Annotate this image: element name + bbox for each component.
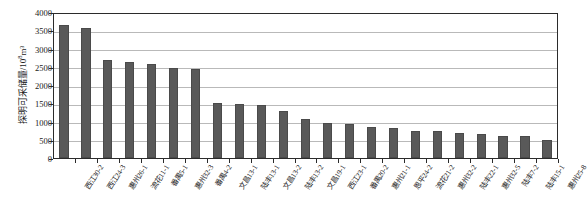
x-axis-tick-label: 西江23-1: [346, 163, 368, 191]
x-axis-tick-label: 番禺5-1: [169, 163, 189, 188]
y-axis-tick-label: 0: [8, 155, 52, 163]
y-axis-tick-label: 3500: [8, 27, 52, 35]
x-axis-tick-label: 西江24-3: [105, 163, 127, 191]
x-axis-tick-label: 文昌13-1: [237, 163, 259, 191]
x-axis-tick-mark: [185, 159, 186, 163]
x-axis-tick-mark: [229, 159, 230, 163]
x-axis-tick-label: 文昌13-2: [281, 163, 303, 191]
x-axis-tick-label: 惠州21-1: [390, 163, 412, 191]
x-axis-tick-label: 番禺20-2: [368, 163, 390, 191]
x-axis-tick-label: 惠州26-1: [127, 163, 149, 191]
x-axis-tick-label: 西江30-2: [83, 163, 105, 191]
x-axis-tick-label: 流花11-1: [149, 163, 171, 191]
gridline: [54, 32, 557, 33]
gridline: [54, 50, 557, 51]
y-axis-title-exponent: 8: [16, 55, 23, 58]
plot-area: [53, 13, 558, 159]
gridline: [54, 105, 557, 106]
x-axis-tick-labels: 西江30-2西江24-3惠州26-1流花11-1番禺5-1惠州32-3番禺4-2…: [53, 163, 558, 211]
y-axis-tick-label: 1000: [8, 119, 52, 127]
gridline: [54, 68, 557, 69]
gridline: [54, 123, 557, 124]
gridline: [54, 141, 557, 142]
y-axis-tick-label: 2000: [8, 82, 52, 90]
x-axis-tick-label: 文昌19-1: [325, 163, 347, 191]
x-axis-tick-label: 惠州25-8: [566, 163, 588, 191]
x-axis-tick-label: 陆丰15-1: [544, 163, 566, 191]
y-axis-tick-label: 4000: [8, 9, 52, 17]
x-axis-tick-label: 惠州32-2: [456, 163, 478, 191]
x-axis-tick-label: 番禺4-2: [213, 163, 233, 188]
x-axis-tick-mark: [536, 159, 537, 163]
x-axis-tick-label: 惠州32-3: [193, 163, 215, 191]
y-axis-tick-label: 1500: [8, 100, 52, 108]
y-axis-tick-label: 500: [8, 137, 52, 145]
x-axis-tick-label: 陆丰13-1: [259, 163, 281, 191]
x-axis-tick-label: 恩平24-2: [412, 163, 434, 191]
y-axis-tick-label: 2500: [8, 64, 52, 72]
y-axis-tick-label: 3000: [8, 46, 52, 54]
x-axis-tick-label: 流花21-2: [434, 163, 456, 191]
gridline: [54, 87, 557, 88]
x-axis-tick-label: 陆丰22-1: [478, 163, 500, 191]
x-axis-tick-mark: [75, 159, 76, 163]
x-axis-tick-label: 陆丰7-2: [520, 163, 540, 188]
x-axis-tick-label: 惠州32-5: [500, 163, 522, 191]
x-axis-tick-label: 陆丰13-2: [303, 163, 325, 191]
